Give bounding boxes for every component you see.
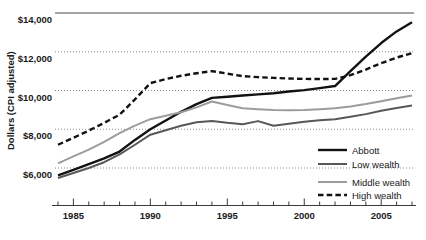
x-tick-label: 2005 <box>371 210 393 221</box>
x-axis: 19851990199520002005 <box>52 199 416 221</box>
legend-label-middle-wealth: Middle wealth <box>352 177 410 188</box>
chart-container: $14,000$12,000$10,000$8,000$6,000Dollars… <box>0 0 426 240</box>
y-axis-title: Dollars (CPI adjusted) <box>5 51 16 150</box>
series-line-high-wealth <box>58 53 412 145</box>
y-tick-label: $14,000 <box>18 14 52 25</box>
x-tick-label: 1990 <box>140 210 161 221</box>
legend: AbbottLow wealthMiddle wealthHigh wealth <box>318 145 410 201</box>
y-axis-ticks: $14,000$12,000$10,000$8,000$6,000 <box>18 14 52 180</box>
x-tick-label: 2000 <box>294 210 315 221</box>
y-tick-label: $6,000 <box>23 169 52 180</box>
y-tick-label: $10,000 <box>18 92 52 103</box>
legend-label-abbott: Abbott <box>352 145 380 156</box>
y-tick-label: $8,000 <box>23 130 52 141</box>
legend-label-high-wealth: High wealth <box>352 190 402 201</box>
x-tick-label: 1985 <box>63 210 85 221</box>
line-chart: $14,000$12,000$10,000$8,000$6,000Dollars… <box>0 0 426 240</box>
legend-label-low-wealth: Low wealth <box>352 159 400 170</box>
y-tick-label: $12,000 <box>18 53 52 64</box>
x-tick-label: 1995 <box>217 210 239 221</box>
